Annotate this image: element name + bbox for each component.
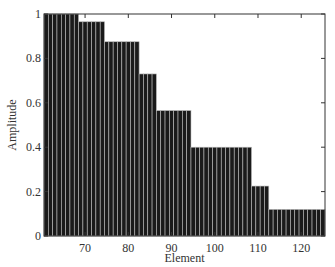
bar [286, 209, 290, 236]
bar [156, 111, 160, 236]
x-tick-label: 120 [292, 241, 310, 255]
bar [117, 42, 121, 236]
bar [269, 209, 273, 236]
bar [191, 147, 195, 236]
bar [96, 22, 100, 236]
bar [148, 74, 152, 236]
y-tick-label: 0.6 [26, 96, 41, 110]
bar [303, 209, 307, 236]
bar [105, 42, 109, 236]
bar [178, 111, 182, 236]
bar [100, 22, 104, 236]
bar [260, 186, 264, 236]
bar [161, 111, 165, 236]
bar [83, 22, 87, 236]
x-tick-label: 70 [79, 241, 91, 255]
bar [57, 14, 61, 236]
bar [290, 209, 294, 236]
bar [308, 209, 312, 236]
y-tick-label: 0 [35, 229, 41, 243]
bar [152, 74, 156, 236]
bar [247, 147, 251, 236]
bar [213, 147, 217, 236]
amplitude-bar-chart: 708090100110120 00.20.40.60.81 Element A… [0, 0, 335, 267]
x-axis-label: Element [165, 251, 206, 265]
bar [316, 209, 320, 236]
bar [70, 14, 74, 236]
bar [264, 186, 268, 236]
x-tick-label: 110 [249, 241, 267, 255]
y-tick-labels: 00.20.40.60.81 [26, 7, 41, 243]
bar [234, 147, 238, 236]
bar [135, 42, 139, 236]
bar [74, 14, 78, 236]
bar [239, 147, 243, 236]
bar [200, 147, 204, 236]
bar [208, 147, 212, 236]
bar [48, 14, 52, 236]
bar [217, 147, 221, 236]
y-axis-label: Amplitude [5, 99, 19, 150]
bar [221, 147, 225, 236]
bar [66, 14, 70, 236]
y-tick-label: 0.2 [26, 185, 41, 199]
bar [252, 186, 256, 236]
bar [204, 147, 208, 236]
bar [226, 147, 230, 236]
bar [321, 209, 325, 236]
bar [109, 42, 113, 236]
bar [165, 111, 169, 236]
bar [312, 209, 316, 236]
bar [139, 74, 143, 236]
y-tick-label: 1 [35, 7, 41, 21]
bars [44, 14, 325, 236]
bar [79, 22, 83, 236]
y-tick-label: 0.8 [26, 51, 41, 65]
x-tick-label: 100 [206, 241, 224, 255]
bar [130, 42, 134, 236]
bar [53, 14, 57, 236]
bar [113, 42, 117, 236]
bar [273, 209, 277, 236]
bar [295, 209, 299, 236]
bar [44, 14, 48, 236]
bar [243, 147, 247, 236]
bar [126, 42, 130, 236]
bar [195, 147, 199, 236]
bar [169, 111, 173, 236]
y-tick-label: 0.4 [26, 140, 41, 154]
x-tick-label: 80 [122, 241, 134, 255]
bar [174, 111, 178, 236]
bar [187, 111, 191, 236]
bar [256, 186, 260, 236]
bar [61, 14, 65, 236]
bar [277, 209, 281, 236]
bar [92, 22, 96, 236]
bar [230, 147, 234, 236]
bar [143, 74, 147, 236]
bar [282, 209, 286, 236]
bar [182, 111, 186, 236]
bar [87, 22, 91, 236]
bar [122, 42, 126, 236]
